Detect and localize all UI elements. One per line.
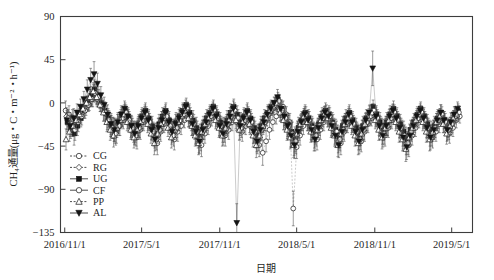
y-axis-title: CH₄通量(μg・C・m⁻²・h⁻¹) [8, 61, 20, 186]
data-point [260, 150, 265, 155]
y-tick-label: 45 [44, 54, 55, 65]
figure-container: 90450−45−90−135 2016/11/12017/5/12017/11… [0, 0, 494, 280]
legend-label: AL [93, 207, 106, 218]
y-tick-label: −135 [33, 227, 55, 238]
x-tick-label: 2016/11/1 [44, 239, 86, 250]
legend-marker-circle-open [76, 188, 81, 193]
x-tick-label: 2017/11/1 [199, 239, 241, 250]
data-point [264, 139, 269, 144]
x-tick-label: 2019/5/1 [433, 239, 470, 250]
x-tick-label: 2018/5/1 [278, 239, 315, 250]
legend-label: RG [93, 162, 107, 173]
legend-label: CF [93, 185, 106, 196]
legend-marker-circle-open [76, 153, 81, 158]
y-tick-label: −45 [38, 141, 54, 152]
legend-label: PP [93, 196, 105, 207]
y-tick-label: −90 [38, 184, 54, 195]
x-axis-title: 日期 [256, 263, 276, 274]
legend-marker-square-filled [77, 176, 82, 181]
legend-label: UG [93, 173, 107, 184]
y-tick-label: 90 [44, 11, 55, 22]
x-tick-label: 2017/5/1 [123, 239, 160, 250]
ch4-flux-time-series-chart: 90450−45−90−135 2016/11/12017/5/12017/11… [0, 0, 494, 280]
data-point [270, 120, 275, 125]
data-point [291, 206, 296, 211]
y-tick-label: 0 [49, 98, 54, 109]
data-point [267, 127, 272, 132]
x-tick-label: 2018/11/1 [354, 239, 396, 250]
legend-label: CG [93, 150, 107, 161]
